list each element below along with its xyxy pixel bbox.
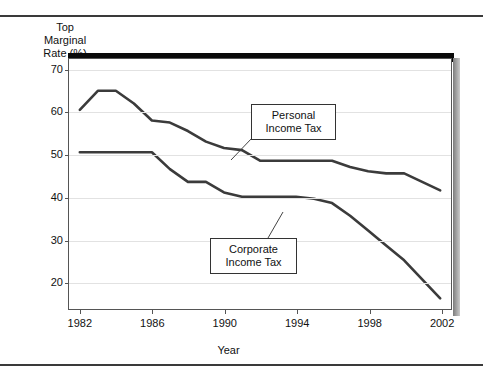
x-tick-label: 1982 (58, 317, 102, 329)
y-axis-title-line-1: Top (26, 21, 104, 34)
y-tick-label: 60 (33, 105, 63, 117)
x-tick-mark (152, 309, 153, 314)
gridline-y (69, 155, 451, 156)
y-tick-label: 30 (33, 234, 63, 246)
callout-corporate-line-2: Income Tax (218, 256, 289, 269)
x-tick-label: 1998 (348, 317, 392, 329)
gridline-y (69, 283, 451, 284)
y-tick-mark (65, 283, 69, 284)
figure-bottom-rule (0, 364, 483, 366)
figure-top-rule (0, 15, 483, 17)
callout-corporate-income-tax: Corporate Income Tax (210, 238, 297, 274)
callout-personal-income-tax: Personal Income Tax (251, 104, 336, 140)
x-axis-title: Year (0, 344, 483, 356)
y-tick-mark (65, 241, 69, 242)
y-tick-label: 40 (33, 191, 63, 203)
y-tick-label: 20 (33, 276, 63, 288)
x-tick-mark (442, 309, 443, 314)
callout-corporate-line-1: Corporate (218, 243, 289, 256)
x-tick-mark (80, 309, 81, 314)
x-tick-mark (225, 309, 226, 314)
y-axis-title-line-2: Marginal (26, 34, 104, 47)
x-tick-label: 2002 (420, 317, 464, 329)
y-tick-mark (65, 155, 69, 156)
callout-personal-line-2: Income Tax (259, 122, 328, 135)
gridline-y (69, 70, 451, 71)
plot-right-shadow (453, 58, 460, 316)
y-tick-label: 70 (33, 63, 63, 75)
x-tick-label: 1990 (203, 317, 247, 329)
x-tick-label: 1994 (275, 317, 319, 329)
figure-container: Top Marginal Rate (%) 203040506070198219… (0, 0, 483, 380)
y-tick-mark (65, 112, 69, 113)
y-tick-label: 50 (33, 148, 63, 160)
x-tick-label: 1986 (130, 317, 174, 329)
x-tick-mark (297, 309, 298, 314)
y-tick-mark (65, 198, 69, 199)
gridline-y (69, 198, 451, 199)
callout-personal-line-1: Personal (259, 109, 328, 122)
x-tick-mark (370, 309, 371, 314)
y-tick-mark (65, 70, 69, 71)
